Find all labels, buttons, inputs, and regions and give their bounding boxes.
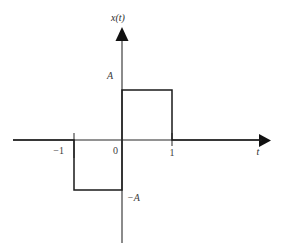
x-axis-label: t [257, 146, 260, 157]
tick-label-zero: 0 [113, 145, 118, 156]
tick-label-minus-one: −1 [53, 145, 64, 156]
negative-amplitude-label: −A [127, 192, 141, 203]
signal-plot-figure: x(t) t A −A −1 0 1 [0, 0, 282, 250]
plot-canvas: x(t) t A −A −1 0 1 [0, 0, 282, 250]
amplitude-label: A [106, 70, 114, 81]
y-axis-arrowhead [116, 27, 129, 41]
tick-label-one: 1 [170, 147, 175, 158]
y-axis-label: x(t) [110, 12, 126, 24]
